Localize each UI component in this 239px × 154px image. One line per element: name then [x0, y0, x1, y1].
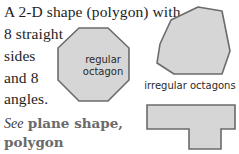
irregular-octagon-shape-2 [147, 105, 235, 149]
see-also: See plane shape, polygon [4, 114, 123, 152]
see-also-link-plane-shape[interactable]: plane shape, [28, 115, 123, 131]
irregular-octagons-caption: irregular octagons [140, 80, 239, 92]
regular-octagon-label: regular octagon [75, 54, 131, 78]
regular-octagon-label-line1: regular [75, 54, 131, 66]
see-also-prefix: See [4, 116, 23, 131]
irregular-octagon-shape-1 [157, 7, 230, 74]
regular-octagon-label-line2: octagon [75, 66, 131, 78]
see-also-link-polygon[interactable]: polygon [4, 134, 64, 150]
